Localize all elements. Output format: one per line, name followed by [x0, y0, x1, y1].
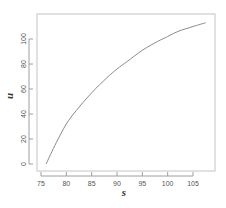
y-tick-label: 60 — [20, 85, 27, 93]
y-tick-label: 100 — [20, 33, 27, 45]
y-axis: 020406080100 — [20, 33, 33, 166]
chart: 020406080100 7580859095100105 s u — [0, 0, 226, 208]
y-tick-label: 80 — [20, 60, 27, 68]
x-axis-title: s — [121, 186, 126, 198]
x-tick-label: 85 — [88, 180, 96, 187]
y-tick-label: 20 — [20, 135, 27, 143]
y-axis-title: u — [3, 93, 15, 99]
x-tick-label: 105 — [187, 180, 199, 187]
x-tick-label: 100 — [162, 180, 174, 187]
x-tick-label: 75 — [37, 180, 45, 187]
data-line — [46, 23, 206, 164]
y-tick-label: 0 — [20, 162, 27, 166]
plot-frame — [37, 14, 215, 171]
x-tick-label: 80 — [62, 180, 70, 187]
x-tick-label: 95 — [138, 180, 146, 187]
x-axis: 7580859095100105 — [37, 172, 199, 187]
x-tick-label: 90 — [113, 180, 121, 187]
y-tick-label: 40 — [20, 110, 27, 118]
